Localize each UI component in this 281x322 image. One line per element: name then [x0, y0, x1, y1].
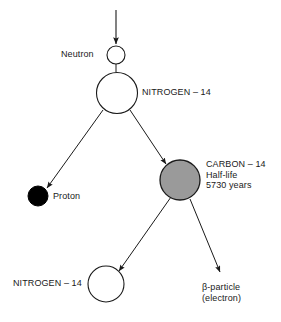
node-carbon-circle	[160, 160, 200, 200]
arrow-nitrogen-to-carbon	[130, 110, 166, 164]
label-beta-particle: β-particle (electron)	[202, 282, 241, 303]
node-nitrogen-top-circle	[97, 73, 138, 114]
node-nitrogen-bottom-circle	[88, 266, 124, 302]
label-carbon-14: CARBON – 14 Half-life 5730 years	[206, 159, 266, 191]
label-nitrogen-top: NITROGEN – 14	[142, 87, 211, 98]
label-nitrogen-bottom: NITROGEN – 14	[13, 278, 82, 289]
carbon-14-decay-diagram: Neutron NITROGEN – 14 Proton CARBON – 14…	[0, 0, 281, 322]
label-neutron: Neutron	[61, 49, 94, 60]
node-proton-circle	[28, 186, 48, 206]
node-neutron-circle	[107, 46, 125, 64]
label-proton: Proton	[53, 191, 80, 202]
arrow-nitrogen-to-proton	[47, 110, 103, 188]
arrow-carbon-to-beta-particle	[190, 199, 220, 272]
arrow-carbon-to-nitrogen	[119, 197, 171, 271]
